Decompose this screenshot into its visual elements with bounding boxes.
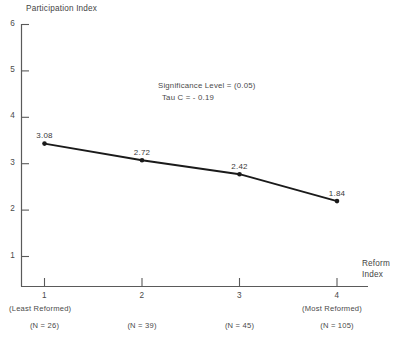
data-point-label-1: 3.08 [28, 131, 62, 140]
x-tick-label-1: 1 [35, 291, 55, 300]
data-point-marker [140, 158, 145, 163]
y-tick-label-5: 5 [3, 65, 15, 74]
data-point-label-2: 2.72 [125, 148, 159, 157]
chart-container: Participation Index Reform Index 6 5 4 3… [0, 0, 413, 340]
x-tick-label-2: 2 [132, 291, 152, 300]
x-tick-label-3: 3 [230, 291, 250, 300]
y-tick-label-3: 3 [3, 158, 15, 167]
chart-plot-area [0, 0, 413, 340]
x-axis-most-reformed-label: (Most Reformed) [302, 304, 362, 313]
data-line-series [45, 144, 338, 202]
y-tick-label-2: 2 [3, 204, 15, 213]
data-point-label-4: 1.84 [320, 189, 354, 198]
sample-size-label-2: (N = 39) [107, 321, 177, 330]
significance-level-text: Significance Level = (0.05) [158, 80, 256, 92]
data-point-label-3: 2.42 [223, 162, 257, 171]
y-tick-label-4: 4 [3, 111, 15, 120]
data-point-marker [335, 199, 340, 204]
sample-size-label-4: (N = 105) [302, 321, 372, 330]
x-axis-least-reformed-label: (Least Reformed) [9, 304, 71, 313]
y-axis-ticks [22, 25, 30, 257]
y-tick-label-6: 6 [3, 19, 15, 28]
tau-c-text: Tau C = - 0.19 [158, 92, 256, 104]
data-point-marker [42, 141, 47, 146]
y-tick-label-1: 1 [3, 251, 15, 260]
x-axis-title-line2: Index [362, 270, 390, 281]
statistics-annotation: Significance Level = (0.05) Tau C = - 0.… [158, 80, 256, 104]
x-axis-title-line1: Reform [362, 259, 390, 270]
sample-size-label-1: (N = 26) [10, 321, 80, 330]
x-tick-label-4: 4 [327, 291, 347, 300]
data-point-marker [237, 172, 242, 177]
sample-size-label-3: (N = 45) [205, 321, 275, 330]
x-axis-ticks [45, 278, 338, 287]
y-axis-title: Participation Index [26, 4, 97, 13]
x-axis-title: Reform Index [362, 259, 390, 280]
